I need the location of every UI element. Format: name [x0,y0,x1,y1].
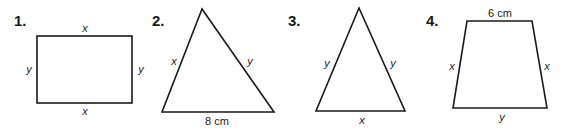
label-left: x [448,60,455,72]
label-right: y [389,57,397,69]
figure-number: 3. [288,12,301,29]
figure-number: 4. [426,12,439,29]
label-top: 6 cm [488,7,512,19]
figures-diagram: 1. x y y x 2. x y 8 cm 3. y y x 4. 6 cm … [0,0,568,133]
label-bottom: y [498,111,506,123]
trapezoid-shape [453,21,547,108]
label-bottom: x [358,114,365,126]
label-right: x [543,60,550,72]
figure-1: 1. x y y x [14,12,145,117]
label-left: y [25,63,33,75]
figure-2: 2. x y 8 cm [152,9,274,127]
label-top: x [81,22,88,34]
figure-number: 1. [14,12,27,29]
rectangle-shape [37,36,132,103]
figure-number: 2. [152,12,165,29]
label-bottom: x [81,105,88,117]
label-left: y [323,57,331,69]
label-left: x [170,55,177,67]
triangle-shape [162,9,274,112]
label-right: y [246,55,254,67]
label-right: y [137,63,145,75]
figure-3: 3. y y x [288,8,405,126]
figure-4: 4. 6 cm x x y [426,7,550,123]
label-bottom: 8 cm [205,115,229,127]
